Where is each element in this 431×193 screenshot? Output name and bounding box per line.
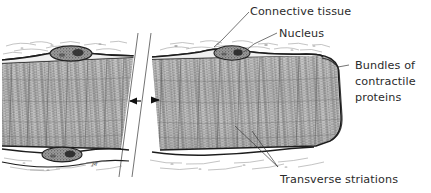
svg-text:M: M (92, 160, 98, 167)
label-transverse-striations: Transverse striations (279, 173, 398, 186)
nucleus-top-left (50, 46, 92, 61)
nucleus-bottom-left (42, 147, 82, 162)
label-bundles-line2: contractile (355, 75, 416, 88)
label-bundles-line1: Bundles of (355, 59, 416, 72)
label-nucleus: Nucleus (279, 27, 324, 40)
label-bundles-line3: proteins (355, 91, 401, 104)
figure-canvas: M Connective tissue Nucleus Bundles of c… (0, 0, 431, 193)
nucleus-top-right (214, 46, 250, 60)
muscle-fiber-figure: M Connective tissue Nucleus Bundles of c… (0, 0, 431, 193)
label-connective-tissue: Connective tissue (250, 5, 351, 18)
